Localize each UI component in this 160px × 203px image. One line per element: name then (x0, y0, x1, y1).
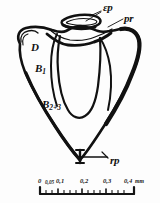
label-epsilon-p: εp (103, 2, 113, 13)
cusp-separating-ridge-left (51, 34, 57, 106)
median-valley-outline (58, 36, 101, 118)
scale-tick-label-0: 0 (38, 178, 41, 185)
label-b1: B1 (35, 63, 46, 74)
anterolabial-fold-inner (23, 34, 28, 45)
scale-tick-label-01: 0,1 (56, 178, 64, 185)
valley-right-wall (100, 38, 111, 110)
scale-tick-label-005: 0,05 (45, 180, 54, 185)
label-rp: rp (110, 155, 119, 166)
label-b2-3: B2+3 (42, 99, 61, 110)
label-b1-subscript: 1 (42, 67, 46, 76)
scale-tick-label-02: 0,2 (80, 178, 88, 185)
label-pr: pr (124, 13, 133, 24)
apex-lens-inner (66, 19, 96, 26)
figure-canvas: εp pr D B1 B2+3 rp 0 0,05 0,1 0,2 0,3 0,… (0, 0, 160, 203)
scale-tick-label-04: 0,4 (124, 178, 132, 185)
scale-tick-label-03: 0,3 (103, 178, 111, 185)
tooth-line-drawing (0, 0, 160, 203)
leader-line-pr (108, 19, 123, 27)
label-b2-3-subscript: 2+3 (49, 103, 61, 112)
scale-unit-label: mm (135, 179, 144, 185)
scale-bar (40, 187, 134, 194)
label-d: D (31, 42, 39, 53)
